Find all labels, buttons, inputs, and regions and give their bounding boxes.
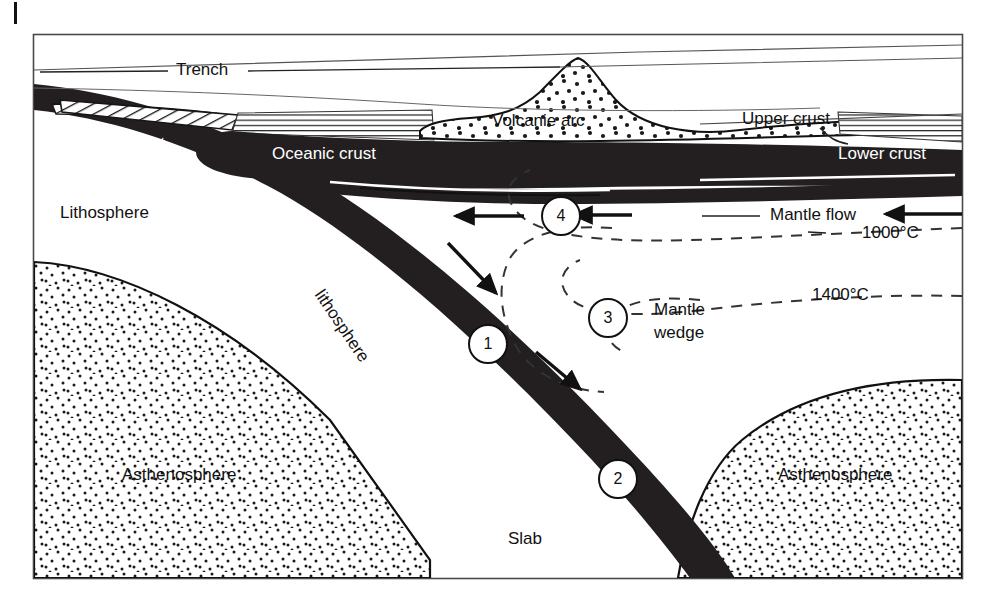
label-lower-crust: Lower crust bbox=[838, 144, 926, 163]
label-oceanic-crust-right: Oceanic crust bbox=[272, 144, 376, 163]
label-slab: Slab bbox=[508, 529, 542, 548]
subduction-zone-diagram: Trench Oceanic crust Oceanic crust Volca… bbox=[0, 0, 990, 605]
isotherm-1000-leader bbox=[808, 232, 826, 233]
label-mantle-wedge-line2: wedge bbox=[653, 323, 704, 342]
callout-1-label: 1 bbox=[484, 335, 493, 352]
trench-leader-left bbox=[40, 71, 168, 72]
callout-1[interactable]: 1 bbox=[469, 325, 507, 363]
callout-4[interactable]: 4 bbox=[542, 197, 580, 235]
callout-3[interactable]: 3 bbox=[589, 299, 627, 337]
label-upper-crust: Upper crust bbox=[742, 109, 830, 128]
callout-2-label: 2 bbox=[614, 470, 623, 487]
figure-root: Trench Oceanic crust Oceanic crust Volca… bbox=[0, 0, 990, 605]
label-mantle-wedge-line1: Mantle bbox=[654, 300, 705, 319]
label-lithosphere: Lithosphere bbox=[60, 203, 149, 222]
label-isotherm-1400: 1400°C bbox=[812, 285, 869, 304]
page-margin-tick bbox=[14, 2, 17, 24]
label-mantle-flow: Mantle flow bbox=[770, 205, 857, 224]
label-isotherm-1000: 1000°C bbox=[862, 223, 919, 242]
callout-3-label: 3 bbox=[604, 309, 613, 326]
label-asthenosphere-right: Asthenosphere bbox=[778, 465, 892, 484]
callout-2[interactable]: 2 bbox=[599, 460, 637, 498]
label-trench: Trench bbox=[176, 60, 228, 79]
callout-4-label: 4 bbox=[557, 207, 566, 224]
label-volcanic-arc: Volcanie arc bbox=[492, 111, 585, 130]
label-asthenosphere-left: Asthenosphere bbox=[122, 465, 236, 484]
